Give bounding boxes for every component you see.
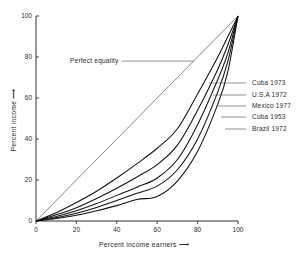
legend-labels: Cuba 1973U.S.A 1972Mexico 1977Cuba 1953B… (252, 79, 291, 132)
y-tick-label: 40 (25, 135, 33, 142)
x-axis-tick-labels: 020406080100 (34, 226, 244, 233)
x-tick-label: 80 (194, 226, 202, 233)
x-tick-label: 60 (154, 226, 162, 233)
legend-label-mexico-1977: Mexico 1977 (252, 102, 291, 109)
x-axis-title: Percent income earners ⟶ (99, 241, 189, 248)
x-tick-label: 40 (113, 226, 121, 233)
legend-label-cuba-1953: Cuba 1953 (252, 113, 286, 120)
annotation-group: Perfect equality (70, 57, 194, 65)
curve-perfect-equality (36, 16, 238, 221)
legend-group: Cuba 1973U.S.A 1972Mexico 1977Cuba 1953B… (209, 79, 291, 132)
y-axis-title: Percent income ⟶ (10, 88, 17, 151)
x-tick-label: 0 (34, 226, 38, 233)
series-group (36, 16, 238, 221)
x-tick-label: 100 (233, 226, 244, 233)
data-curves (36, 16, 238, 221)
annotation-perfect-equality: Perfect equality (70, 57, 119, 65)
legend-leader-lines (209, 83, 246, 129)
x-tick-label: 20 (73, 226, 81, 233)
y-tick-label: 80 (25, 53, 33, 60)
axis-titles-group: Percent income earners ⟶ Percent income … (10, 88, 189, 248)
legend-label-brazil-1972: Brazil 1972 (252, 125, 287, 132)
legend-label-u-s-a-1972: U.S.A 1972 (252, 91, 287, 98)
y-tick-label: 0 (28, 217, 32, 224)
y-tick-label: 100 (21, 12, 32, 19)
y-tick-label: 60 (25, 94, 33, 101)
legend-label-cuba-1973: Cuba 1973 (252, 79, 286, 86)
lorenz-curve-chart: 020406080100 020406080100 Perfect equali… (0, 0, 300, 258)
chart-canvas: 020406080100 020406080100 Perfect equali… (0, 0, 300, 258)
y-axis-tick-labels: 020406080100 (21, 12, 32, 224)
y-tick-label: 20 (25, 176, 33, 183)
